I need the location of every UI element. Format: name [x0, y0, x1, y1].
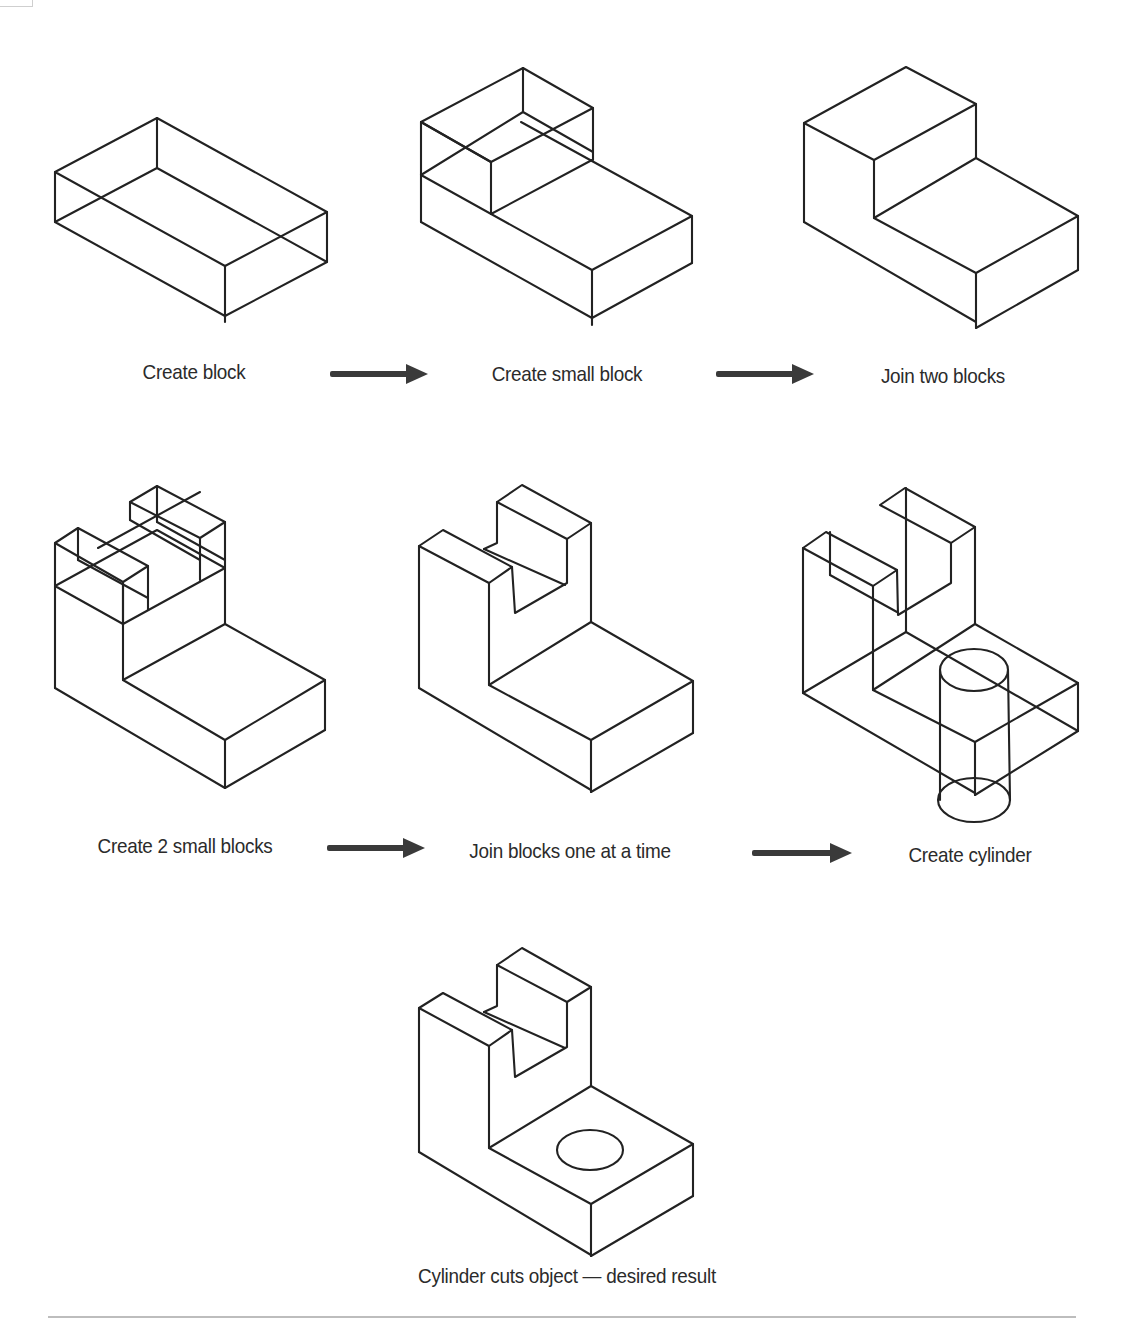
bottom-divider [48, 1316, 1076, 1318]
step-7-final-bracket-with-hole [419, 948, 693, 1256]
step-6-bracket-with-cylinder-wireframe [803, 488, 1078, 822]
step-5-label: Join blocks one at a time [469, 839, 670, 863]
step-3-joined-l-shape [804, 67, 1078, 328]
step-5-notched-bracket [419, 485, 693, 792]
step-7-label: Cylinder cuts object — desired result [418, 1264, 716, 1288]
step-6-label: Create cylinder [908, 843, 1031, 867]
step-3-label: Join two blocks [881, 364, 1005, 388]
right-arrow-icon [330, 364, 428, 384]
step-4-label: Create 2 small blocks [97, 834, 272, 858]
hole-ellipse [557, 1130, 623, 1170]
step-1-label: Create block [143, 360, 246, 384]
step-2-small-block-wireframe [421, 68, 692, 325]
step-4-two-small-blocks-wireframe [55, 486, 325, 788]
modeling-steps-drawing [0, 0, 1122, 1332]
right-arrow-icon [327, 838, 425, 858]
right-arrow-icon [716, 364, 814, 384]
step-1-block-wireframe [55, 118, 327, 322]
right-arrow-icon [752, 843, 852, 863]
step-2-label: Create small block [492, 362, 643, 386]
